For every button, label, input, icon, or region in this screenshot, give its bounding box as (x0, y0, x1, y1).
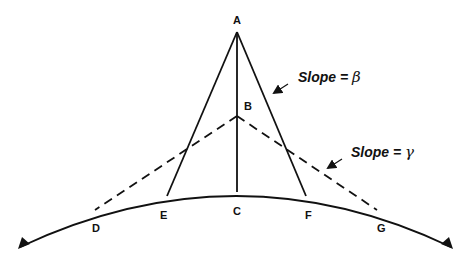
label-A: A (233, 14, 241, 26)
label-B: B (244, 100, 252, 112)
arc-arrowhead-right (441, 237, 453, 249)
line-A-F (237, 32, 306, 196)
pointer-arrow-gamma (328, 159, 342, 168)
pointer-arrow-beta (274, 84, 288, 93)
label-D: D (92, 222, 100, 234)
label-E: E (160, 209, 167, 221)
label-F: F (305, 209, 312, 221)
line-A-E (167, 32, 237, 196)
ground-arc (20, 196, 451, 247)
slope-diagram: A B C D E F G Slope = β Slope = γ (0, 0, 470, 262)
arc-arrowhead-left (18, 237, 30, 249)
label-G: G (377, 222, 386, 234)
slope-gamma-annotation: Slope = γ (351, 143, 414, 161)
slope-beta-annotation: Slope = β (298, 68, 361, 86)
label-C: C (233, 205, 241, 217)
